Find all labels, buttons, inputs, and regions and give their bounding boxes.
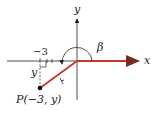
x-axis-label: x	[144, 54, 151, 67]
y-axis-label: y	[73, 3, 81, 16]
r-marker	[60, 78, 64, 84]
angle-diagram: y x β −3 y P(−3, y)	[0, 0, 156, 113]
angle-beta-label: β	[96, 41, 103, 54]
right-angle-mark	[40, 61, 46, 67]
tick-label-neg3: −3	[33, 46, 48, 57]
terminal-side-ray	[40, 61, 77, 88]
point-p-label: P(−3, y)	[15, 93, 61, 106]
vertical-y-label: y	[30, 66, 38, 79]
point-p	[38, 86, 43, 91]
